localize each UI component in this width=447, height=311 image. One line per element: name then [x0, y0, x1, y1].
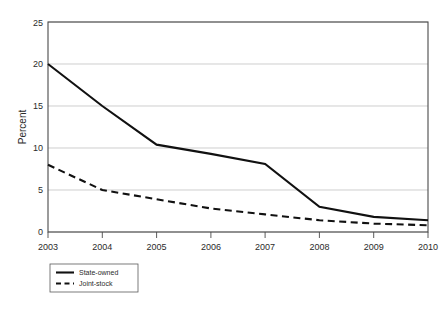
- x-tick-label-2008: 2008: [309, 242, 329, 252]
- x-axis-tick-labels: 2003 2004 2005 2006 2007 2008 2009 2010: [38, 242, 438, 252]
- legend-label-joint-stock: Joint-stock: [79, 280, 113, 287]
- y-tick-label-10: 10: [33, 143, 43, 153]
- y-tick-label-20: 20: [33, 59, 43, 69]
- x-tick-label-2007: 2007: [255, 242, 275, 252]
- y-tick-label-25: 25: [33, 18, 43, 28]
- plot-background: [48, 22, 428, 232]
- chart-container: 0 5 10 15 20 25 Percent 2003 2004 2005 2…: [0, 0, 447, 311]
- y-tick-label-5: 5: [38, 185, 43, 195]
- y-axis-tick-labels: 0 5 10 15 20 25: [33, 18, 43, 237]
- x-tick-label-2009: 2009: [364, 242, 384, 252]
- legend-label-state-owned: State-owned: [79, 269, 118, 276]
- y-tick-label-0: 0: [38, 227, 43, 237]
- y-axis-title: Percent: [17, 110, 28, 145]
- x-tick-label-2003: 2003: [38, 242, 58, 252]
- line-chart: 0 5 10 15 20 25 Percent 2003 2004 2005 2…: [0, 0, 447, 311]
- x-tick-label-2006: 2006: [201, 242, 221, 252]
- x-axis-tickmarks: [48, 232, 428, 238]
- chart-legend: State-owned Joint-stock: [50, 264, 138, 292]
- y-tick-label-15: 15: [33, 101, 43, 111]
- x-tick-label-2005: 2005: [147, 242, 167, 252]
- x-tick-label-2004: 2004: [92, 242, 112, 252]
- x-tick-label-2010: 2010: [418, 242, 438, 252]
